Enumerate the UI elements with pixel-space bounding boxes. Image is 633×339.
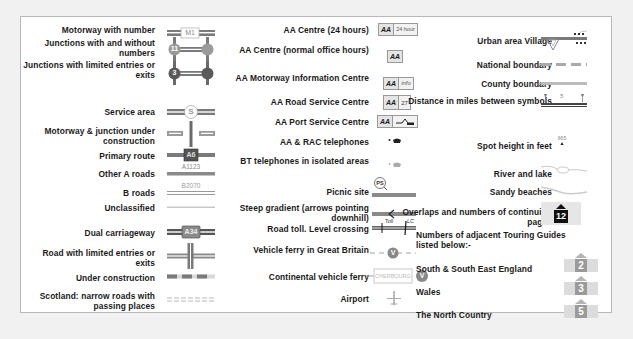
legend-item-road-limited: Road with limited entries or exits — [21, 248, 155, 268]
legend-item-national-boundary: National boundary — [402, 60, 552, 70]
legend-label: Motorway with number — [21, 25, 155, 35]
national-boundary-icon — [541, 62, 587, 67]
vehicle-ferry-icon: V — [370, 246, 416, 260]
legend-item-a-roads: Other A roads — [21, 169, 155, 179]
legend-item-motorway-number: Motorway with number — [21, 25, 155, 35]
legend-item-river-lake: River and lake — [402, 169, 552, 179]
touring-guides-heading: Numbers of adjacent Touring Guides liste… — [416, 230, 566, 250]
service-area-icon: S — [167, 105, 215, 119]
motorway-construction-icon — [167, 121, 215, 147]
junction-numbered-icon: 11 — [167, 37, 215, 61]
aa-centre-24h-icon: AA 24 hour — [378, 23, 418, 36]
legend-item-aa-road-service: AA Road Service Centre — [219, 97, 369, 107]
legend-item-toll-crossing: Road toll. Level crossing — [219, 224, 369, 234]
legend-item-dual-carriageway: Dual carriageway — [21, 228, 155, 238]
legend-item-steep-gradient: Steep gradient (arrows pointing downhill… — [219, 203, 369, 223]
aa-port-service-icon: AA — [377, 115, 418, 128]
legend-item-b-roads: B roads — [21, 188, 155, 198]
airplane-icon — [387, 291, 401, 305]
legend-item-junctions-limited: Junctions with limited entries or exits — [21, 60, 155, 80]
b-road-icon: B2070 — [167, 182, 215, 196]
legend-item-picnic-site: Picnic site — [219, 187, 369, 197]
legend-item-aa-port: AA Port Service Centre — [219, 117, 369, 127]
ship-icon — [393, 116, 417, 127]
legend-item-unclassified: Unclassified — [21, 203, 155, 213]
legend-item-page-overlap: Overlaps and numbers of continuing pages — [402, 207, 552, 227]
legend-item-distance: Distance in miles between symbols — [402, 96, 552, 106]
river-lake-icon — [541, 163, 587, 177]
legend-item-under-construction: Under construction — [21, 273, 155, 283]
touring-guide-wales: Wales — [416, 287, 561, 297]
dual-carriageway-icon: A34 — [167, 226, 215, 238]
distance-markers-icon: 5 — [541, 93, 587, 109]
touring-guide-north-country: The North Country — [416, 310, 561, 320]
unclassified-road-icon — [167, 206, 215, 209]
legend-item-continental-ferry: Continental vehicle ferry — [219, 272, 369, 282]
telephone-icon — [388, 137, 402, 145]
legend-item-aa-office: AA Centre (normal office hours) — [219, 45, 369, 55]
spot-height-icon: 665 — [555, 135, 569, 146]
legend-item-junctions-numbered: Junctions with and without numbers — [21, 38, 155, 58]
legend-item-sandy-beaches: Sandy beaches — [402, 187, 552, 197]
legend-item-airport: Airport — [219, 294, 369, 304]
narrow-roads-icon — [167, 297, 215, 303]
legend-item-county-boundary: County boundary — [402, 79, 552, 89]
junction-limited-icon: 3 — [167, 61, 215, 85]
under-construction-icon — [167, 274, 215, 280]
legend-item-aa-telephone: AA & RAC telephones — [219, 137, 369, 147]
primary-route-icon: A6 — [167, 149, 215, 161]
road-limited-icon — [167, 243, 215, 269]
legend-item-narrow-roads: Scotland: narrow roads with passing plac… — [21, 291, 155, 311]
map-legend-panel: Motorway with number M1 Junctions with a… — [20, 16, 612, 313]
touring-guide-south-east: South & South East England — [416, 264, 561, 274]
sandy-beaches-icon — [541, 185, 587, 197]
county-boundary-icon — [541, 81, 587, 86]
legend-item-service-area: Service area — [21, 107, 155, 117]
legend-item-motorway-construction: Motorway & junction under construction — [21, 126, 155, 146]
legend-item-spot-height: Spot height in feet — [402, 141, 552, 151]
legend-item-vehicle-ferry: Vehicle ferry in Great Britain — [219, 245, 369, 255]
legend-item-bt-telephone: BT telephones in isolated areas — [219, 156, 369, 166]
page-overlap-icon: 12 — [541, 202, 581, 225]
bt-telephone-icon — [388, 161, 402, 169]
legend-item-urban-village: Urban area Village — [402, 36, 552, 46]
aa-centre-office-icon: AA — [387, 50, 403, 63]
legend-item-primary-route: Primary route — [21, 151, 155, 161]
urban-village-icon — [541, 30, 589, 52]
a-road-icon: A1123 — [167, 163, 215, 177]
legend-item-aa-24: AA Centre (24 hours) — [219, 25, 369, 35]
legend-item-aa-info: AA Motorway Information Centre — [219, 73, 369, 83]
